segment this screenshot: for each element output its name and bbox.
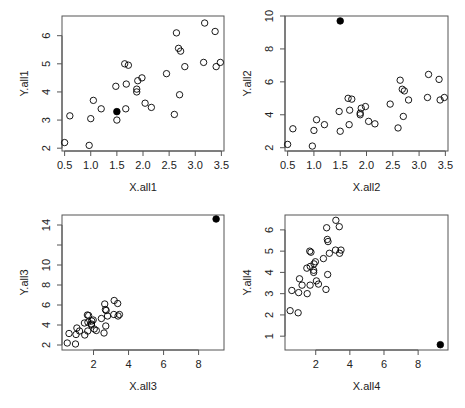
data-point (125, 62, 131, 68)
data-point (324, 271, 330, 277)
y-axis: 246810Y.all2 (241, 10, 285, 151)
data-point (295, 310, 301, 316)
data-point (424, 94, 430, 100)
data-point (400, 113, 406, 119)
x-axis: 0.51.01.52.02.53.03.5X.all2 (280, 151, 453, 193)
data-point (313, 117, 319, 123)
y-tick-label: 2 (40, 145, 52, 151)
y-tick-label: 14 (40, 219, 52, 231)
y-axis-title: Y.all4 (241, 269, 253, 295)
data-point (123, 81, 129, 87)
y-tick-label: 3 (263, 291, 275, 297)
x-tick-label: 4 (347, 358, 353, 370)
scatterplot-matrix-figure: 0.51.01.52.02.53.03.5X.all123456Y.all10.… (0, 0, 465, 408)
y-tick-label: 3 (40, 117, 52, 123)
data-point (66, 330, 72, 336)
x-tick-label: 1.5 (109, 159, 124, 171)
data-point (425, 71, 431, 77)
x-tick-label: 2.5 (161, 159, 176, 171)
highlighted-point (213, 216, 220, 223)
data-point (64, 340, 70, 346)
data-point (336, 223, 342, 229)
data-point (142, 100, 148, 106)
x-tick-label: 2.5 (385, 159, 400, 171)
y-tick-label: 4 (263, 269, 275, 275)
y-axis-title: Y.all3 (18, 269, 30, 295)
data-point (101, 330, 107, 336)
x-tick-label: 1.5 (333, 159, 348, 171)
data-point (362, 103, 368, 109)
data-point (395, 125, 401, 131)
x-tick-label: 0.5 (57, 159, 72, 171)
x-tick-label: 3.0 (188, 159, 203, 171)
x-tick-label: 4 (125, 358, 131, 370)
data-point (113, 83, 119, 89)
data-point (176, 92, 182, 98)
x-axis: 2468X.all4 (313, 350, 422, 392)
x-tick-label: 1.0 (306, 159, 321, 171)
y-tick-label: 5 (40, 61, 52, 67)
data-point (397, 77, 403, 83)
y-tick-label: 4 (263, 112, 275, 118)
y-tick-label: 2 (263, 312, 275, 318)
data-point (73, 331, 79, 337)
data-point (336, 108, 342, 114)
y-axis-title: Y.all1 (18, 70, 30, 96)
data-points (284, 18, 447, 150)
plot-frame (285, 215, 448, 350)
data-point (399, 86, 405, 92)
y-axis: 24681014Y.all3 (18, 219, 62, 348)
data-point (304, 290, 310, 296)
data-point (372, 121, 378, 127)
data-point (436, 76, 442, 82)
data-point (98, 106, 104, 112)
data-point (337, 128, 343, 134)
y-axis-title: Y.all2 (241, 70, 253, 96)
x-tick-label: 8 (196, 358, 202, 370)
data-point (90, 97, 96, 103)
x-tick-label: 6 (161, 358, 167, 370)
data-point (114, 117, 120, 123)
x-tick-label: 0.5 (280, 159, 295, 171)
data-point (171, 111, 177, 117)
y-tick-label: 8 (40, 282, 52, 288)
y-tick-label: 2 (263, 145, 275, 151)
data-point (295, 289, 301, 295)
x-axis-title: X.all1 (129, 181, 157, 193)
data-point (333, 217, 339, 223)
x-axis-title: X.all4 (353, 380, 381, 392)
data-point (67, 113, 73, 119)
data-point (123, 106, 129, 112)
data-point (163, 70, 169, 76)
data-point (307, 282, 313, 288)
data-point (173, 30, 179, 36)
x-axis: 2468X.all3 (90, 350, 201, 392)
data-point (349, 96, 355, 102)
data-point (346, 121, 352, 127)
scatter-panel-3: 2468X.all324681014Y.all3 (18, 215, 224, 392)
x-tick-label: 2 (313, 358, 319, 370)
data-point (200, 59, 206, 65)
data-point (312, 259, 318, 265)
y-tick-label: 6 (263, 227, 275, 233)
data-point (122, 61, 128, 67)
data-point (299, 282, 305, 288)
highlighted-point (437, 341, 444, 348)
data-points (64, 216, 219, 347)
data-points (61, 20, 223, 149)
scatter-panel-1: 0.51.01.52.02.53.03.5X.all123456Y.all1 (18, 16, 229, 193)
y-axis: 123456Y.all4 (241, 227, 285, 339)
data-point (290, 126, 296, 132)
x-axis-title: X.all2 (353, 181, 381, 193)
x-tick-label: 3.0 (411, 159, 426, 171)
data-point (98, 315, 104, 321)
x-tick-label: 6 (381, 358, 387, 370)
data-point (72, 341, 78, 347)
x-tick-label: 1.0 (83, 159, 98, 171)
y-tick-label: 2 (40, 342, 52, 348)
data-point (309, 143, 315, 149)
data-point (88, 115, 94, 121)
scatter-panel-2: 0.51.01.52.02.53.03.5X.all2246810Y.all2 (241, 10, 453, 193)
data-point (326, 250, 332, 256)
data-points (287, 217, 444, 348)
